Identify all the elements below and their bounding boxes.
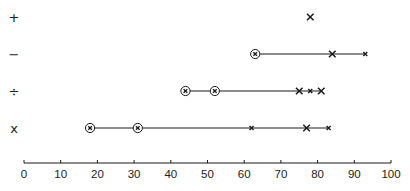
row-label-subtraction: − [9, 47, 20, 62]
large-x-marker-icon [307, 14, 314, 21]
x-tick-label: 20 [91, 168, 104, 180]
row-division: ÷ [9, 84, 325, 99]
dot-plot-chart: +−÷x 0102030405060708090100 [0, 0, 410, 191]
x-axis: 0102030405060708090100 [21, 160, 401, 180]
x-tick-label: 40 [164, 168, 177, 180]
x-tick-label: 60 [238, 168, 251, 180]
x-tick-label: 80 [311, 168, 324, 180]
row-multiplication: x [10, 121, 330, 136]
row-addition: + [9, 10, 314, 25]
row-label-division: ÷ [9, 84, 20, 99]
row-label-addition: + [9, 10, 20, 25]
x-tick-label: 70 [275, 168, 288, 180]
x-tick-label: 10 [54, 168, 67, 180]
row-label-multiplication: x [10, 121, 18, 136]
row-subtraction: − [9, 47, 368, 62]
x-tick-label: 90 [348, 168, 361, 180]
x-tick-label: 0 [21, 168, 27, 180]
x-tick-label: 100 [381, 168, 400, 180]
x-tick-label: 50 [201, 168, 214, 180]
x-tick-label: 30 [128, 168, 141, 180]
plot-rows: +−÷x [9, 10, 368, 136]
